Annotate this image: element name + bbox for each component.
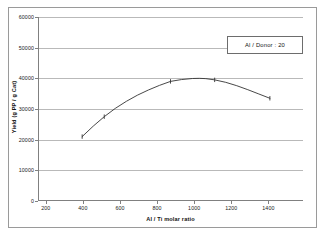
xtick-label-1400: 1400 — [248, 205, 288, 211]
legend-label: Al / Donor : 20 — [245, 42, 285, 48]
ytick-mark-20000 — [35, 140, 38, 141]
ytick-label-50000: 50000 — [0, 45, 34, 51]
ytick-label-40000: 40000 — [0, 75, 34, 81]
xtick-mark-800 — [157, 201, 158, 204]
legend-box: Al / Donor : 20 — [227, 36, 303, 54]
ytick-label-30000: 30000 — [0, 106, 34, 112]
xtick-label-1200: 1200 — [211, 205, 251, 211]
xtick-mark-1000 — [194, 201, 195, 204]
ytick-mark-50000 — [35, 48, 38, 49]
ytick-mark-40000 — [35, 78, 38, 79]
xtick-label-400: 400 — [63, 205, 103, 211]
ytick-mark-30000 — [35, 109, 38, 110]
xtick-mark-1400 — [268, 201, 269, 204]
ytick-mark-60000 — [35, 17, 38, 18]
ytick-mark-0 — [35, 201, 38, 202]
ytick-mark-10000 — [35, 170, 38, 171]
xtick-label-600: 600 — [100, 205, 140, 211]
xtick-mark-400 — [83, 201, 84, 204]
xtick-label-800: 800 — [137, 205, 177, 211]
xtick-label-1000: 1000 — [174, 205, 214, 211]
ytick-label-10000: 10000 — [0, 167, 34, 173]
ytick-label-0: 0 — [0, 198, 34, 204]
xtick-label-200: 200 — [26, 205, 66, 211]
xtick-mark-600 — [120, 201, 121, 204]
plot-wrapper: 60000 50000 40000 30000 20000 10000 0 20… — [0, 0, 326, 238]
ytick-label-20000: 20000 — [0, 137, 34, 143]
chart-figure: 60000 50000 40000 30000 20000 10000 0 20… — [0, 0, 326, 238]
y-axis-title: Yield (g PP / g Cat) — [11, 47, 17, 167]
x-axis-title: Al / Ti molar ratio — [38, 216, 303, 222]
xtick-mark-200 — [46, 201, 47, 204]
ytick-label-60000: 60000 — [0, 14, 34, 20]
xtick-mark-1200 — [231, 201, 232, 204]
